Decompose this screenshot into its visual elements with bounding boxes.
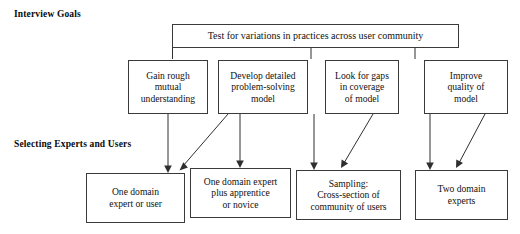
box-one-domain-expert-or-user-label: One domain expert or user <box>109 186 162 209</box>
box-improve-quality-of-model-label: Improve quality of model <box>447 70 484 105</box>
box-two-domain-experts-label: Two domain experts <box>437 183 485 206</box>
connector-goal2b-sel2 <box>344 114 373 163</box>
arrowhead-goal0-sel0 <box>164 166 172 174</box>
row-label-selecting-experts: Selecting Experts and Users <box>14 139 131 149</box>
connector-goal3b-sel3 <box>459 114 485 163</box>
box-develop-detailed-problem-solving-model[interactable]: Develop detailed problem-solving model <box>218 60 308 114</box>
arrowhead-goal3-sel3 <box>426 163 434 171</box>
arrowhead-goal2b-sel2 <box>341 160 348 168</box>
arrowhead-goal1-sel1 <box>236 161 244 169</box>
arrowhead-goal2-sel2 <box>310 163 318 171</box>
box-one-domain-expert-plus-apprentice-label: One domain expert plus apprentice or nov… <box>204 176 278 211</box>
box-gain-rough-mutual-understanding[interactable]: Gain rough mutual understanding <box>128 60 208 114</box>
box-gain-rough-mutual-understanding-label: Gain rough mutual understanding <box>141 70 195 105</box>
box-test-for-variations[interactable]: Test for variations in practices across … <box>172 24 459 48</box>
box-one-domain-expert-or-user[interactable]: One domain expert or user <box>86 173 185 223</box>
box-look-for-gaps-in-coverage[interactable]: Look for gaps in coverage of model <box>325 60 399 114</box>
arrowhead-goal3b-sel3 <box>456 160 463 168</box>
connector-goal1-sel0 <box>183 114 228 166</box>
process-diagram: Interview Goals Selecting Experts and Us… <box>0 0 520 234</box>
box-sampling-cross-section[interactable]: Sampling: Cross-section of community of … <box>296 170 401 220</box>
box-one-domain-expert-plus-apprentice[interactable]: One domain expert plus apprentice or nov… <box>190 168 291 218</box>
box-test-for-variations-label: Test for variations in practices across … <box>208 30 424 42</box>
box-look-for-gaps-in-coverage-label: Look for gaps in coverage of model <box>335 70 389 105</box>
box-improve-quality-of-model[interactable]: Improve quality of model <box>424 60 508 114</box>
row-label-interview-goals: Interview Goals <box>14 9 81 19</box>
arrowhead-goal1-sel0 <box>180 162 188 170</box>
box-two-domain-experts[interactable]: Two domain experts <box>415 170 508 220</box>
box-sampling-cross-section-label: Sampling: Cross-section of community of … <box>310 178 386 213</box>
box-develop-detailed-problem-solving-model-label: Develop detailed problem-solving model <box>230 70 295 105</box>
